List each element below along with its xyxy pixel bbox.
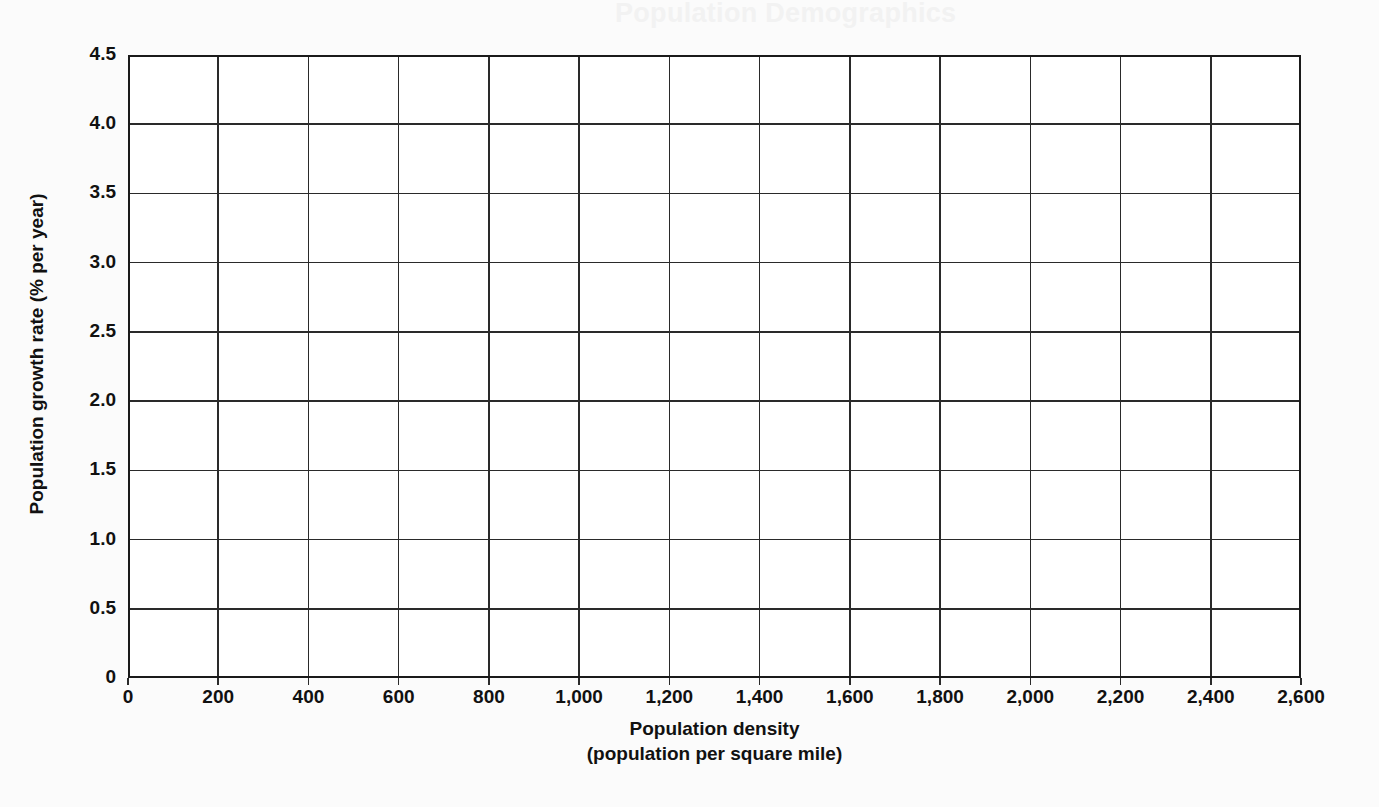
- gridline-vertical: [1120, 55, 1122, 678]
- x-axis-tick: [127, 678, 129, 685]
- x-axis-title-sub: (population per square mile): [128, 741, 1301, 766]
- gridline-vertical: [488, 55, 490, 678]
- gridline-horizontal: [128, 193, 1301, 195]
- x-axis-tick: [1300, 678, 1302, 685]
- gridline-vertical: [939, 55, 941, 678]
- axis-line-top: [128, 55, 1301, 57]
- x-axis-tick: [308, 678, 310, 685]
- y-axis-tick-label: 4.0: [56, 112, 116, 134]
- x-axis-tick: [1210, 678, 1212, 685]
- x-axis-title-main: Population density: [128, 716, 1301, 741]
- x-axis-tick: [217, 678, 219, 685]
- y-axis-tick-label: 0.5: [56, 597, 116, 619]
- gridline-horizontal: [128, 608, 1301, 610]
- gridline-vertical: [759, 55, 761, 678]
- scatter-plot-grid: 00.51.01.52.02.53.03.54.04.5 02004006008…: [0, 0, 1379, 807]
- gridline-horizontal: [128, 262, 1301, 264]
- x-axis-tick: [578, 678, 580, 685]
- x-axis-tick: [1120, 678, 1122, 685]
- gridline-horizontal: [128, 400, 1301, 402]
- x-axis-tick: [759, 678, 761, 685]
- y-axis-tick-label: 0: [56, 666, 116, 688]
- x-axis-tick: [669, 678, 671, 685]
- y-axis-tick-label: 1.5: [56, 458, 116, 480]
- axis-line-bottom: [128, 676, 1301, 678]
- gridline-horizontal: [128, 123, 1301, 125]
- gridline-vertical: [217, 55, 219, 678]
- x-axis-tick: [1030, 678, 1032, 685]
- x-axis-tick: [849, 678, 851, 685]
- x-axis-tick: [398, 678, 400, 685]
- plot-area[interactable]: [128, 55, 1301, 678]
- y-axis-tick-label: 3.0: [56, 251, 116, 273]
- gridline-vertical: [398, 55, 400, 678]
- y-axis-tick-label: 2.0: [56, 389, 116, 411]
- axis-line-left: [128, 55, 130, 678]
- gridline-horizontal: [128, 539, 1301, 541]
- y-axis-tick-label: 3.5: [56, 181, 116, 203]
- y-axis-title: Population growth rate (% per year): [26, 94, 48, 614]
- gridline-horizontal: [128, 470, 1301, 472]
- gridline-vertical: [578, 55, 580, 678]
- gridline-vertical: [1210, 55, 1212, 678]
- x-axis-title: Population density (population per squar…: [128, 716, 1301, 766]
- x-axis-tick: [488, 678, 490, 685]
- gridline-horizontal: [128, 331, 1301, 333]
- gridline-vertical: [669, 55, 671, 678]
- y-axis-tick-label: 2.5: [56, 320, 116, 342]
- axis-line-right: [1299, 55, 1301, 678]
- y-axis-tick-label: 1.0: [56, 528, 116, 550]
- gridline-vertical: [308, 55, 310, 678]
- gridline-vertical: [849, 55, 851, 678]
- y-axis-tick-label: 4.5: [56, 43, 116, 65]
- gridline-vertical: [1030, 55, 1032, 678]
- x-axis-tick-label: 2,600: [1241, 686, 1361, 708]
- x-axis-tick: [939, 678, 941, 685]
